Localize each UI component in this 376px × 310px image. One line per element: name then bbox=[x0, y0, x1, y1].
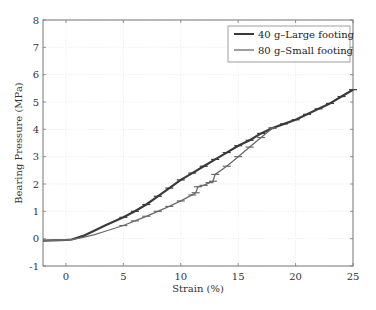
y-tick-label: 4 bbox=[33, 124, 39, 135]
x-tick-label: 10 bbox=[174, 271, 187, 282]
x-axis-title: Strain (%) bbox=[172, 283, 224, 294]
x-tick-label: 15 bbox=[232, 271, 245, 282]
legend-label-small: 80 g–Small footing bbox=[258, 45, 354, 56]
x-tick-label: 5 bbox=[120, 271, 126, 282]
x-tick-label: 25 bbox=[347, 271, 360, 282]
y-axis-title: Bearing Pressure (MPa) bbox=[13, 82, 24, 204]
y-tick-label: 0 bbox=[33, 233, 39, 244]
y-tick-label: 8 bbox=[33, 15, 39, 26]
y-tick-label: 5 bbox=[33, 97, 39, 108]
legend-label-large: 40 g–Large footing bbox=[258, 29, 355, 40]
y-tick-label: 1 bbox=[33, 206, 39, 217]
x-tick-label: 20 bbox=[289, 271, 302, 282]
y-tick-label: 6 bbox=[33, 69, 39, 80]
legend: 40 g–Large footing 80 g–Small footing bbox=[228, 26, 355, 62]
y-tick-label: 3 bbox=[33, 151, 39, 162]
line-chart: 0510152025-1012345678 Strain (%) Bearing… bbox=[0, 0, 376, 310]
y-tick-label: -1 bbox=[29, 261, 39, 272]
y-tick-label: 7 bbox=[33, 42, 39, 53]
series-line-0 bbox=[43, 90, 353, 241]
data-series bbox=[43, 90, 357, 241]
y-tick-label: 2 bbox=[33, 179, 39, 190]
x-tick-label: 0 bbox=[63, 271, 69, 282]
